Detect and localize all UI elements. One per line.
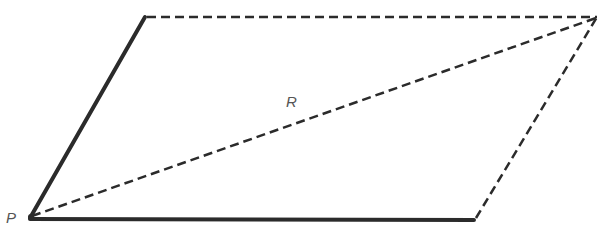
dashed-side-right xyxy=(476,17,597,218)
parallelogram-diagram: P R xyxy=(0,0,612,239)
vector-side-left xyxy=(30,17,145,218)
origin-label: P xyxy=(6,209,16,226)
resultant-label: R xyxy=(286,93,297,110)
origin-point xyxy=(28,214,34,220)
resultant-diagonal xyxy=(32,18,596,216)
diagram-svg: P R xyxy=(0,0,612,239)
vector-side-bottom xyxy=(30,219,474,220)
